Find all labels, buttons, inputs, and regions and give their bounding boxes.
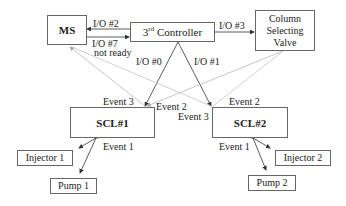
label-io1: I/O #1 (194, 56, 220, 67)
edge-io0 (145, 42, 178, 106)
label-io2: I/O #2 (93, 18, 119, 29)
injector1-label: Injector 1 (26, 152, 65, 164)
pump1-box: Pump 1 (50, 178, 97, 194)
label-scl1-event1: Event 1 (103, 141, 134, 152)
scl1-label: SCL#1 (96, 117, 128, 129)
valve-label-line1: Column (269, 13, 301, 25)
edge-scl1-pump1 (80, 138, 96, 173)
label-scl2-event1: Event 1 (219, 141, 250, 152)
scl2-label: SCL#2 (234, 117, 266, 129)
label-io0: I/O #0 (136, 56, 162, 67)
injector2-label: Injector 2 (284, 152, 323, 164)
injector1-box: Injector 1 (17, 150, 73, 166)
pump2-label: Pump 2 (257, 177, 288, 189)
pump1-label: Pump 1 (58, 180, 89, 192)
valve-label-line3: Valve (274, 37, 297, 49)
edge-io1 (178, 42, 211, 106)
ms-box: MS (47, 15, 87, 45)
label-scl2-event2: Event 2 (229, 96, 260, 107)
injector2-box: Injector 2 (275, 150, 331, 166)
label-scl2-event3: Event 3 (178, 111, 209, 122)
edge-scl2-pump2 (253, 138, 266, 170)
scl1-box: SCL#1 (70, 107, 155, 138)
label-not-ready: not ready (94, 47, 132, 58)
scl2-box: SCL#2 (212, 107, 288, 138)
label-scl1-event3: Event 3 (103, 96, 134, 107)
ms-label: MS (59, 24, 76, 36)
controller-label: 3rd Controller (143, 26, 202, 38)
valve-label-line2: Selecting (266, 25, 303, 37)
controller-box: 3rd Controller (130, 22, 215, 42)
label-io3: I/O #3 (219, 20, 245, 31)
edge-scl2-injector2 (253, 138, 270, 148)
pump2-box: Pump 2 (248, 175, 296, 191)
column-selecting-valve-box: Column Selecting Valve (255, 10, 315, 51)
